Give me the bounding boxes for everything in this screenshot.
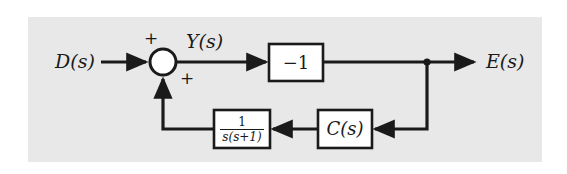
output-signal-label: E(s) [486, 52, 524, 71]
plant-transfer-function: 1 s(s+1) [220, 116, 263, 143]
controller-block-label: C(s) [318, 110, 372, 148]
summing-junction-circle [150, 49, 176, 75]
input-signal-label: D(s) [55, 52, 95, 71]
plant-denominator: s(s+1) [220, 130, 263, 143]
plant-numerator: 1 [234, 116, 250, 129]
block-diagram-figure: D(s) Y(s) E(s) + + −1 C(s) 1 s(s+1) [0, 0, 567, 174]
summing-junction-plus-top: + [144, 30, 158, 47]
summing-junction-plus-bottom: + [180, 70, 194, 87]
gain-block-label: −1 [269, 44, 323, 81]
intermediate-signal-label: Y(s) [186, 32, 223, 51]
wire-node-to-controller [375, 62, 427, 129]
diagram-canvas [0, 0, 567, 174]
plant-block-label: 1 s(s+1) [214, 110, 270, 148]
